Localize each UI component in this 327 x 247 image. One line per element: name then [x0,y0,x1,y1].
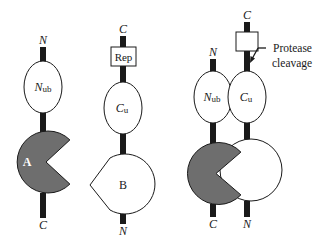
linker-bar [40,47,46,62]
reporter-label: Rep [115,51,133,63]
c-terminus-label: C [119,22,128,36]
linker-bar [210,123,216,144]
linker-bar [210,59,216,71]
n-terminus-label: N [38,33,48,47]
split-ubiquitin-diagram: N Nub A C C Rep Cu B N C N [0,0,327,247]
linker-bar [244,123,250,140]
linker-bar [244,22,250,32]
linker-bar [244,51,250,71]
linker-bar [210,204,216,217]
protease-label: Protease [273,42,312,54]
reporter-box [236,32,258,51]
complex: C N Protease cleavage Nub Cu C N [187,8,312,231]
linker-bar [120,134,126,154]
linker-bar [120,66,126,82]
c-terminus-label: C [39,218,48,232]
cleavage-label: cleavage [272,57,312,70]
protein-a-label: A [23,155,32,169]
linker-bar [244,201,250,217]
linker-bar [120,214,126,224]
construct-a: N Nub A C [17,33,70,232]
construct-b: C Rep Cu B N [90,22,155,238]
linker-bar [40,193,46,218]
c-terminus-label: C [209,217,218,231]
c-terminus-label: C [243,8,252,22]
n-terminus-label: N [118,224,128,238]
n-terminus-label: N [208,45,218,59]
n-terminus-label: N [242,217,252,231]
linker-bar [120,36,126,47]
protein-b-label: B [119,178,127,192]
